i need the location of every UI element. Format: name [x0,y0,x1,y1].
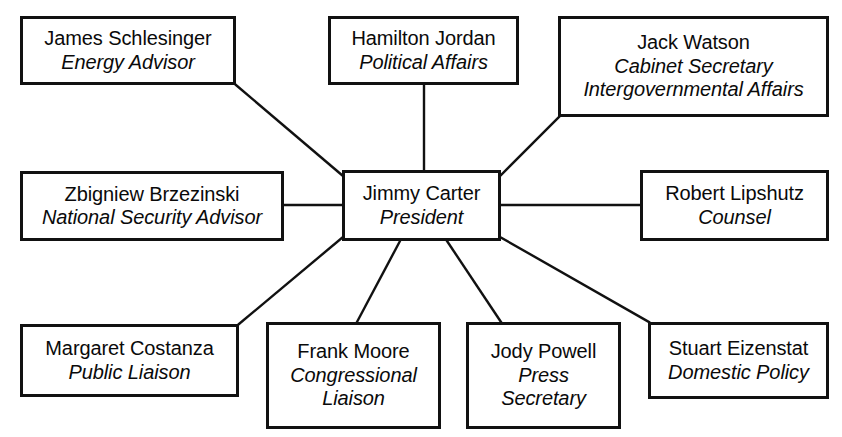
node-jack-watson[interactable]: Jack Watson Cabinet Secretary Intergover… [558,16,829,117]
node-name: Margaret Costanza [45,337,213,360]
node-james-schlesinger[interactable]: James Schlesinger Energy Advisor [20,16,236,85]
edge-carter-schlesinger [236,85,343,176]
node-role-line: Public Liaison [68,361,190,384]
node-name: Jimmy Carter [363,182,481,205]
edge-carter-watson [500,117,559,176]
node-zbigniew-brzezinski[interactable]: Zbigniew Brzezinski National Security Ad… [20,171,284,241]
node-margaret-costanza[interactable]: Margaret Costanza Public Liaison [20,324,239,397]
edge-carter-moore [357,241,400,322]
edge-carter-costanza [239,237,343,324]
node-role-line: Intergovernmental Affairs [583,78,803,101]
node-jody-powell[interactable]: Jody Powell Press Secretary [466,322,621,429]
node-name: Hamilton Jordan [351,27,495,50]
node-role-line: Secretary [501,387,586,410]
node-jimmy-carter[interactable]: Jimmy Carter President [342,170,501,241]
node-frank-moore[interactable]: Frank Moore Congressional Liaison [266,322,441,429]
node-role-line: President [380,206,464,229]
node-role-line: National Security Advisor [42,206,262,229]
org-chart-diagram: James Schlesinger Energy Advisor Hamilto… [0,0,842,437]
node-robert-lipshutz[interactable]: Robert Lipshutz Counsel [640,170,829,241]
node-role-line: Domestic Policy [668,361,809,384]
node-name: Zbigniew Brzezinski [65,183,240,206]
node-name: Jody Powell [491,340,597,363]
node-role-line: Counsel [698,206,771,229]
node-role-line: Energy Advisor [61,51,194,74]
node-name: Frank Moore [297,340,409,363]
node-role-line: Liaison [322,387,385,410]
node-role-line: Cabinet Secretary [614,55,772,78]
node-role-line: Political Affairs [359,51,488,74]
node-role-line: Congressional [290,364,417,387]
node-name: James Schlesinger [44,27,211,50]
node-hamilton-jordan[interactable]: Hamilton Jordan Political Affairs [328,16,519,85]
node-name: Robert Lipshutz [665,182,804,205]
edge-carter-eizenstat [500,237,649,322]
node-role-line: Press [518,364,569,387]
node-name: Jack Watson [637,31,750,54]
node-stuart-eizenstat[interactable]: Stuart Eizenstat Domestic Policy [648,322,829,399]
edge-carter-powell [447,241,501,322]
node-name: Stuart Eizenstat [669,337,809,360]
